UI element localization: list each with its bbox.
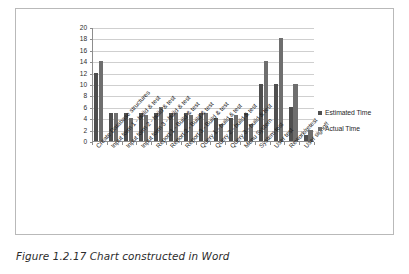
chart-frame: 20181614121086420 Create Database struct… [15,8,394,235]
y-axis-tick-label: 8 [83,93,87,100]
square-marker-icon [318,127,322,131]
legend-item-actual-time: Actual Time [318,125,392,132]
legend-label: Estimated Time [325,109,371,116]
legend-label: Actual Time [325,125,360,132]
figure-caption: Figure 1.2.17 Chart constructed in Word [16,250,229,262]
y-axis-tick-label: 6 [83,105,87,112]
figure-container: 20181614121086420 Create Database struct… [0,0,409,274]
y-axis-tick-label: 20 [80,25,87,32]
bar [99,61,103,141]
y-axis-tick-label: 2 [83,127,87,134]
y-axis-tick-label: 14 [80,59,87,66]
chart-legend: Estimated Time Actual Time [318,109,392,141]
y-axis-tick-label: 4 [83,116,87,123]
bar-group [289,28,298,141]
square-marker-icon [318,111,322,115]
y-axis: 20181614121086420 [68,28,90,142]
bar-group [94,28,103,141]
legend-item-estimated-time: Estimated Time [318,109,392,116]
y-axis-tick-label: 18 [80,36,87,43]
y-axis-tick-label: 16 [80,48,87,55]
y-axis-tick-label: 12 [80,70,87,77]
x-axis-labels: Create Database structuresInput form 1 -… [16,142,395,237]
y-axis-tick-label: 10 [80,82,87,89]
bar [94,73,98,141]
